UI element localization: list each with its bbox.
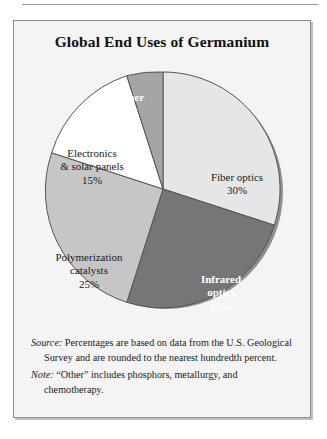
page-top-rule — [22, 4, 318, 5]
source-note: Source: Percentages are based on data fr… — [31, 335, 297, 365]
pie-chart: Fiber optics 30% Infrared optics 25% Pol… — [14, 61, 312, 343]
figure-notes: Source: Percentages are based on data fr… — [31, 335, 297, 399]
page-title: Global End Uses of Germanium — [14, 33, 310, 51]
figure-page: Global End Uses of Germanium Fiber optic… — [0, 0, 327, 439]
source-note-lead: Source: — [31, 337, 62, 348]
other-note: Note: “Other” includes phosphors, metall… — [31, 367, 297, 397]
other-note-lead: Note: — [31, 369, 54, 380]
source-note-text: Percentages are based on data from the U… — [44, 337, 292, 363]
figure-card: Global End Uses of Germanium Fiber optic… — [13, 20, 311, 418]
pie-chart-svg — [40, 61, 286, 315]
other-note-text: “Other” includes phosphors, metallurgy, … — [44, 369, 238, 395]
